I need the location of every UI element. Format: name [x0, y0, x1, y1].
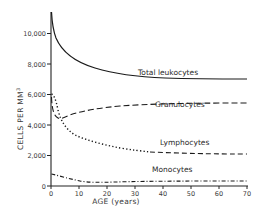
- label-granulocytes: Granulocytes: [155, 100, 205, 109]
- series-lymphocytes-late: [150, 152, 247, 154]
- x-tick-label: 40: [159, 190, 167, 198]
- series-lymphocytes-early: [52, 94, 151, 152]
- axes: [51, 12, 248, 186]
- x-tick-label: 0: [49, 190, 53, 198]
- y-tick-label: 2,000: [27, 152, 46, 160]
- x-tick-label: 60: [215, 190, 223, 198]
- y-tick-labels: 0 2,000 4,000 6,000 8,000 10,000: [23, 30, 46, 191]
- y-axis-title-text: CELLS PER MM: [16, 91, 25, 150]
- x-tick-label: 10: [75, 190, 83, 198]
- y-axis-title: CELLS PER MM3: [15, 88, 25, 150]
- label-lymphocytes: Lymphocytes: [160, 138, 209, 147]
- series-monocytes: [52, 174, 248, 182]
- label-monocytes: Monocytes: [152, 165, 193, 174]
- y-tick-label: 6,000: [27, 91, 46, 99]
- x-axis-title: AGE (years): [92, 197, 140, 206]
- y-axis-title-sup: 3: [15, 88, 21, 91]
- x-tick-labels: 0 10 20 30 40 50 60 70: [49, 190, 251, 198]
- y-tick-label: 10,000: [23, 30, 46, 38]
- y-tick-label: 4,000: [27, 122, 46, 130]
- svg-text:CELLS PER MM3: CELLS PER MM3: [15, 88, 25, 150]
- y-tick-label: 8,000: [27, 61, 46, 69]
- label-total-leukocytes: Total leukocytes: [137, 68, 198, 77]
- line-chart: 0 2,000 4,000 6,000 8,000 10,000 0 10 20…: [0, 0, 264, 209]
- x-tick-label: 70: [243, 190, 251, 198]
- y-tick-label: 0: [42, 183, 46, 191]
- series-granulocytes: [52, 97, 248, 118]
- x-tick-label: 50: [187, 190, 195, 198]
- y-ticks: [47, 34, 51, 187]
